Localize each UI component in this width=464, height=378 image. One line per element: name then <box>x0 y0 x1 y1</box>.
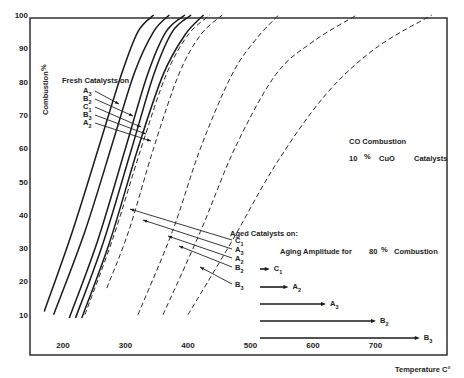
chart-subtitle: 10 % CuO Catalysts <box>349 152 447 163</box>
arrowhead-icon <box>130 209 134 212</box>
arrowhead-icon <box>415 336 420 340</box>
y-tick-label: 70 <box>19 111 28 120</box>
arrowhead-icon <box>284 285 289 289</box>
y-axis-unit: % <box>39 64 48 71</box>
series-label: B3 <box>235 280 243 291</box>
arrowhead-icon <box>147 138 151 141</box>
subtitle-catalysts: Catalysts <box>414 154 447 163</box>
aged-curve-b2 <box>163 15 357 315</box>
y-tick-label: 20 <box>19 277 28 286</box>
x-tick-label: 700 <box>369 341 383 350</box>
x-axis-title: Temperature C° <box>395 365 450 374</box>
y-tick-label: 60 <box>19 144 28 153</box>
y-tick-label: 40 <box>19 211 28 220</box>
amp-header-combustion: Combustion <box>394 247 438 256</box>
x-tick-label: 200 <box>56 341 70 350</box>
leader-line <box>200 267 232 284</box>
series-label: C1 <box>274 264 282 275</box>
subtitle-cuo: CuO <box>379 154 395 163</box>
x-tick-label: 600 <box>306 341 320 350</box>
y-tick-label: 90 <box>19 44 28 53</box>
amp-header-text: Aging Amplitude for <box>280 247 352 256</box>
aged-curve-b3 <box>188 15 432 315</box>
series-label: B3 <box>424 333 432 344</box>
plot-frame <box>30 18 447 355</box>
fresh-catalysts-header: Fresh Catalysts on <box>62 76 130 85</box>
x-axis-ticks: 200300400500600700 <box>56 341 382 350</box>
arrowhead-icon <box>200 267 204 270</box>
curves <box>44 15 432 318</box>
aged-catalysts-header: Aged Catalysts on: <box>230 229 298 238</box>
arrowhead-icon <box>371 319 376 323</box>
y-axis-title-text: Combustion <box>41 71 50 115</box>
subtitle-percent: % <box>364 152 371 161</box>
co-combustion-chart: 102030405060708090100 200300400500600700… <box>0 0 464 378</box>
y-tick-label: 10 <box>19 311 28 320</box>
y-axis-title: Combustion % <box>39 64 50 115</box>
fresh-curve-a3 <box>44 15 153 311</box>
amp-header-percent: % <box>381 245 388 254</box>
y-tick-label: 30 <box>19 244 28 253</box>
aged-curve-c1 <box>85 15 210 315</box>
aging-amplitude-header: Aging Amplitude for 80 % Combustion <box>280 245 438 256</box>
y-tick-label: 50 <box>19 178 28 187</box>
chart-title: CO Combustion <box>349 137 406 146</box>
x-tick-label: 400 <box>181 341 195 350</box>
arrowhead-icon <box>321 302 326 306</box>
y-tick-label: 100 <box>15 11 29 20</box>
subtitle-10: 10 <box>349 154 357 163</box>
series-label: B2 <box>235 263 243 274</box>
amp-header-80: 80 <box>369 247 377 256</box>
arrowhead-icon <box>179 246 183 249</box>
aging-amplitude-arrows: C1A2A3B2B3 <box>260 264 432 344</box>
arrowhead-icon <box>129 113 133 116</box>
x-tick-label: 500 <box>244 341 258 350</box>
y-axis-ticks: 102030405060708090100 <box>15 11 29 320</box>
y-tick-label: 80 <box>19 78 28 87</box>
series-label: A3 <box>330 299 338 310</box>
arrowhead-icon <box>115 101 119 104</box>
arrowhead-icon <box>265 267 270 271</box>
x-tick-label: 300 <box>119 341 133 350</box>
leader-line <box>130 209 232 240</box>
fresh-curve-b2 <box>54 15 170 315</box>
series-label: A2 <box>293 282 301 293</box>
leader-line <box>143 220 232 249</box>
arrowhead-icon <box>143 220 147 223</box>
series-label: B2 <box>380 316 388 327</box>
